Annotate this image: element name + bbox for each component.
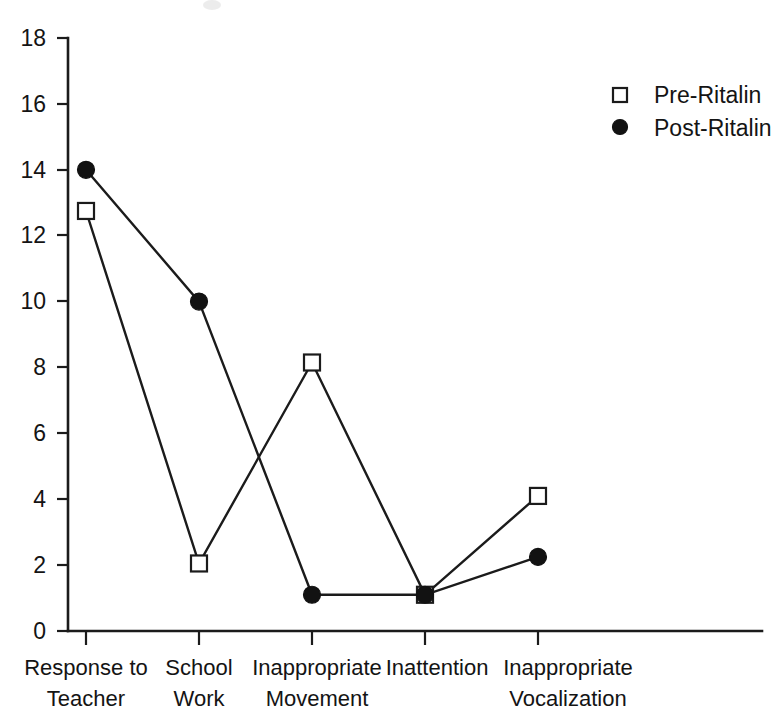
x-label-school-work-line1: School — [165, 655, 232, 680]
data-point-filled-circle — [417, 586, 434, 603]
data-point-open-square — [78, 203, 94, 219]
y-tick-label-4: 4 — [33, 486, 46, 512]
legend: Pre-Ritalin Post-Ritalin — [613, 82, 771, 141]
data-point-filled-circle — [78, 161, 95, 178]
x-label-inappropriate-movement-line1: Inappropriate — [252, 655, 382, 680]
x-label-inappropriate-vocalization-line1: Inappropriate — [503, 655, 633, 680]
y-tick-label-14: 14 — [20, 157, 46, 183]
y-tick-label-2: 2 — [33, 552, 46, 578]
data-point-open-square — [191, 555, 207, 571]
x-label-inattention-line1: Inattention — [386, 655, 489, 680]
x-label-school-work-line2: Work — [174, 686, 226, 711]
x-axis-ticks — [86, 631, 538, 645]
line-chart: 18 16 14 12 10 8 6 4 2 0 Response to Tea… — [0, 0, 771, 717]
legend-open-square-icon — [613, 88, 627, 102]
y-tick-label-6: 6 — [33, 420, 46, 446]
y-tick-label-18: 18 — [20, 25, 46, 51]
x-label-response-to-teacher-line2: Teacher — [47, 686, 125, 711]
legend-label-post-ritalin: Post-Ritalin — [654, 115, 771, 141]
data-point-filled-circle — [530, 548, 547, 565]
legend-label-pre-ritalin: Pre-Ritalin — [654, 82, 761, 108]
post-ritalin-markers — [78, 161, 547, 603]
pre-ritalin-line — [86, 211, 538, 595]
post-ritalin-line — [86, 170, 538, 595]
x-axis-labels: Response to Teacher School Work Inapprop… — [24, 655, 633, 711]
x-label-inappropriate-vocalization-line2: Vocalization — [509, 686, 626, 711]
legend-filled-circle-icon — [613, 120, 628, 135]
data-point-filled-circle — [191, 293, 208, 310]
chart-container: 18 16 14 12 10 8 6 4 2 0 Response to Tea… — [0, 0, 771, 717]
y-tick-label-12: 12 — [20, 222, 46, 248]
x-label-inappropriate-movement-line2: Movement — [266, 686, 369, 711]
x-label-response-to-teacher-line1: Response to — [24, 655, 148, 680]
scan-artifact — [203, 0, 221, 10]
y-tick-label-10: 10 — [20, 288, 46, 314]
data-point-open-square — [304, 355, 320, 371]
series-post-ritalin — [78, 161, 547, 603]
data-point-open-square — [530, 488, 546, 504]
data-point-filled-circle — [304, 586, 321, 603]
y-tick-label-0: 0 — [33, 618, 46, 644]
series-pre-ritalin — [78, 203, 546, 603]
y-tick-label-16: 16 — [20, 91, 46, 117]
y-tick-label-8: 8 — [33, 354, 46, 380]
y-axis-ticks: 18 16 14 12 10 8 6 4 2 0 — [20, 25, 68, 644]
